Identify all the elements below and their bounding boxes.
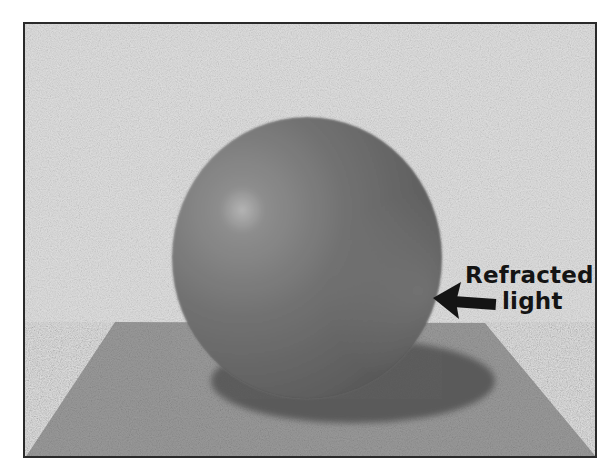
- annotation-label-line2: light: [502, 290, 563, 313]
- scene-illustration: [25, 24, 595, 456]
- figure-frame: Refracted light: [23, 22, 597, 458]
- annotation-label-line1: Refracted: [465, 264, 594, 287]
